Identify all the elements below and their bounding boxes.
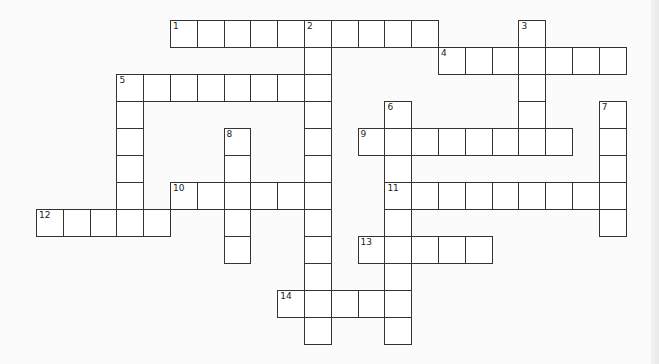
crossword-cell[interactable] (545, 182, 573, 210)
crossword-cell[interactable]: 7 (599, 101, 627, 129)
crossword-cell[interactable] (492, 182, 520, 210)
crossword-cell[interactable] (116, 209, 144, 237)
crossword-cell[interactable] (250, 182, 278, 210)
crossword-cell[interactable] (572, 182, 600, 210)
crossword-cell[interactable]: 6 (384, 101, 412, 129)
crossword-cell[interactable] (599, 182, 627, 210)
crossword-cell[interactable] (492, 47, 520, 75)
crossword-cell[interactable] (224, 209, 252, 237)
crossword-cell[interactable]: 14 (277, 290, 305, 318)
crossword-cell[interactable] (545, 47, 573, 75)
crossword-cell[interactable] (250, 20, 278, 48)
clue-number: 3 (521, 22, 527, 31)
clue-number: 5 (119, 76, 125, 85)
crossword-cell[interactable] (304, 182, 332, 210)
crossword-cell[interactable]: 9 (358, 128, 386, 156)
crossword-cell[interactable] (170, 74, 198, 102)
crossword-cell[interactable] (518, 182, 546, 210)
crossword-cell[interactable] (599, 128, 627, 156)
crossword-cell[interactable] (465, 128, 493, 156)
crossword-cell[interactable] (143, 74, 171, 102)
crossword-cell[interactable] (304, 263, 332, 291)
crossword-cell[interactable] (331, 290, 359, 318)
crossword-cell[interactable] (411, 20, 439, 48)
crossword-cell[interactable] (358, 20, 386, 48)
crossword-cell[interactable] (304, 74, 332, 102)
crossword-cell[interactable] (197, 182, 225, 210)
crossword-cell[interactable] (277, 20, 305, 48)
crossword-cell[interactable] (384, 317, 412, 345)
crossword-cell[interactable]: 11 (384, 182, 412, 210)
crossword-cell[interactable] (438, 128, 466, 156)
crossword-cell[interactable] (116, 128, 144, 156)
crossword-cell[interactable] (224, 20, 252, 48)
crossword-cell[interactable] (411, 182, 439, 210)
crossword-cell[interactable] (384, 236, 412, 264)
crossword-cell[interactable] (492, 128, 520, 156)
page-edge-shadow (651, 0, 659, 364)
crossword-cell[interactable] (304, 317, 332, 345)
crossword-cell[interactable] (384, 128, 412, 156)
crossword-cell[interactable] (518, 74, 546, 102)
crossword-cell[interactable] (411, 128, 439, 156)
crossword-cell[interactable] (599, 47, 627, 75)
crossword-cell[interactable] (438, 236, 466, 264)
crossword-cell[interactable] (304, 47, 332, 75)
clue-number: 4 (441, 49, 447, 58)
clue-number: 13 (361, 238, 372, 247)
crossword-cell[interactable] (331, 20, 359, 48)
clue-number: 14 (280, 292, 291, 301)
crossword-cell[interactable] (116, 182, 144, 210)
crossword-cell[interactable]: 2 (304, 20, 332, 48)
crossword-cell[interactable] (304, 155, 332, 183)
crossword-cell[interactable]: 4 (438, 47, 466, 75)
crossword-cell[interactable] (304, 128, 332, 156)
crossword-cell[interactable] (63, 209, 91, 237)
crossword-cell[interactable] (143, 209, 171, 237)
crossword-cell[interactable] (518, 128, 546, 156)
crossword-cell[interactable]: 3 (518, 20, 546, 48)
clue-number: 11 (387, 184, 398, 193)
crossword-cell[interactable] (224, 236, 252, 264)
crossword-cell[interactable] (358, 290, 386, 318)
crossword-cell[interactable] (465, 236, 493, 264)
crossword-cell[interactable] (304, 101, 332, 129)
crossword-cell[interactable]: 12 (36, 209, 64, 237)
clue-number: 6 (387, 103, 393, 112)
crossword-cell[interactable] (197, 20, 225, 48)
crossword-cell[interactable] (116, 155, 144, 183)
crossword-cell[interactable]: 8 (224, 128, 252, 156)
crossword-cell[interactable] (224, 74, 252, 102)
crossword-cell[interactable] (116, 101, 144, 129)
crossword-cell[interactable] (384, 155, 412, 183)
crossword-cell[interactable] (250, 74, 278, 102)
crossword-cell[interactable] (545, 128, 573, 156)
crossword-cell[interactable] (384, 209, 412, 237)
crossword-cell[interactable] (197, 74, 225, 102)
crossword-cell[interactable] (304, 209, 332, 237)
crossword-cell[interactable] (411, 236, 439, 264)
crossword-cell[interactable] (304, 290, 332, 318)
crossword-cell[interactable]: 13 (358, 236, 386, 264)
crossword-cell[interactable] (384, 290, 412, 318)
clue-number: 8 (227, 130, 233, 139)
crossword-cell[interactable]: 5 (116, 74, 144, 102)
crossword-cell[interactable] (438, 182, 466, 210)
crossword-cell[interactable] (465, 47, 493, 75)
crossword-cell[interactable]: 10 (170, 182, 198, 210)
crossword-cell[interactable] (384, 20, 412, 48)
crossword-cell[interactable] (599, 209, 627, 237)
crossword-cell[interactable] (277, 182, 305, 210)
crossword-cell[interactable] (224, 155, 252, 183)
crossword-cell[interactable] (90, 209, 118, 237)
crossword-cell[interactable]: 1 (170, 20, 198, 48)
crossword-cell[interactable] (224, 182, 252, 210)
crossword-cell[interactable] (277, 74, 305, 102)
crossword-cell[interactable] (384, 263, 412, 291)
crossword-cell[interactable] (599, 155, 627, 183)
crossword-cell[interactable] (572, 47, 600, 75)
crossword-cell[interactable] (518, 101, 546, 129)
crossword-cell[interactable] (518, 47, 546, 75)
crossword-cell[interactable] (304, 236, 332, 264)
crossword-cell[interactable] (465, 182, 493, 210)
